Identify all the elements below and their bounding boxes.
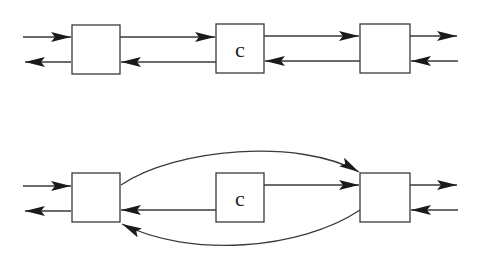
- top-diagram: c: [23, 24, 458, 74]
- bottom-right-node: [360, 173, 410, 222]
- top-c-label: c: [235, 37, 245, 62]
- bottom-diagram: c: [23, 151, 458, 245]
- bottom-left-node: [72, 173, 120, 222]
- top-left-node: [72, 25, 120, 74]
- top-right-node: [360, 24, 410, 73]
- network-diagram: c c: [0, 0, 487, 262]
- bottom-c-label: c: [235, 186, 245, 211]
